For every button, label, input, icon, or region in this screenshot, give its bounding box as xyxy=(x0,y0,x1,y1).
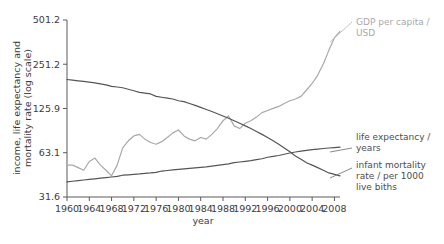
x-tick-label: 1972 xyxy=(122,203,146,214)
x-tick-label: 1980 xyxy=(166,203,190,214)
y-tick-label: 63.1 xyxy=(39,147,60,158)
life-expectancy-annotation-leader xyxy=(330,148,352,152)
series-line-life xyxy=(67,147,340,182)
series-line-gdp xyxy=(67,31,340,175)
x-tick-label: 1988 xyxy=(211,203,235,214)
life-expectancy-label-line2: years xyxy=(356,143,381,153)
gdp-annotation-leader xyxy=(330,22,352,42)
y-tick-label: 125.9 xyxy=(33,103,60,114)
x-tick-label: 2008 xyxy=(322,203,346,214)
y-axis-title-line2: mortality rate (log scale) xyxy=(22,49,33,167)
series-group xyxy=(67,31,340,182)
x-tick-label: 1976 xyxy=(144,203,168,214)
x-axis-ticks: 1960196419681972197619801984198819921996… xyxy=(55,197,347,214)
infant-mortality-annotation-leader xyxy=(330,168,352,178)
x-tick-label: 2000 xyxy=(278,203,302,214)
y-tick-label: 251.2 xyxy=(33,59,60,70)
infant-mortality-label-line1: infant mortality xyxy=(356,160,427,170)
x-tick-label: 1996 xyxy=(255,203,279,214)
gdp-per-capita-label-line2: USD xyxy=(356,28,375,38)
x-tick-label: 1992 xyxy=(233,203,257,214)
x-tick-label: 2004 xyxy=(300,203,324,214)
x-axis-title: year xyxy=(192,215,213,226)
x-tick-label: 1968 xyxy=(99,203,123,214)
y-axis-title-line1: income, life expectancy and xyxy=(11,41,22,175)
line-chart-plot: 501.2251.2125.963.131.6 1960196419681972… xyxy=(0,0,444,244)
infant-mortality-label-line3: live biths xyxy=(356,182,397,192)
y-axis-ticks: 501.2251.2125.963.131.6 xyxy=(33,14,67,202)
x-tick-label: 1960 xyxy=(55,203,79,214)
x-tick-label: 1964 xyxy=(77,203,101,214)
life-expectancy-label-line1: life expectancy / xyxy=(356,132,431,142)
y-tick-label: 31.6 xyxy=(39,191,60,202)
y-tick-label: 501.2 xyxy=(33,14,60,25)
gdp-per-capita-label-line1: GDP per capita / xyxy=(356,17,431,27)
x-tick-label: 1984 xyxy=(189,203,213,214)
series-line-infant xyxy=(67,79,340,175)
chart-container: 501.2251.2125.963.131.6 1960196419681972… xyxy=(0,0,444,244)
infant-mortality-label-line2: rate / per 1000 xyxy=(356,171,424,181)
